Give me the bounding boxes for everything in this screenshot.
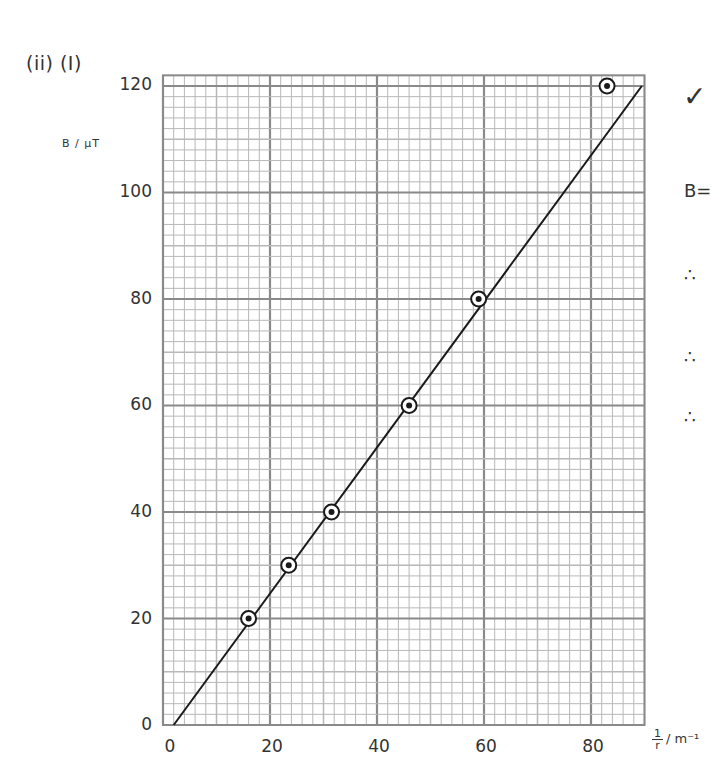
data-point-marker [281, 558, 296, 573]
data-point-marker [324, 505, 339, 520]
data-point-marker [241, 611, 256, 626]
data-point-marker [402, 398, 417, 413]
data-point-marker [600, 79, 615, 94]
data-point-marker [471, 292, 486, 307]
